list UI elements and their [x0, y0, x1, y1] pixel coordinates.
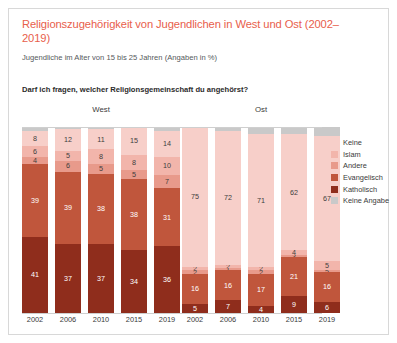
- bar-segment-andere: 6: [55, 161, 81, 172]
- bar-segment-evangelisch: 39: [55, 172, 81, 245]
- bar-value-label: 11: [97, 136, 104, 143]
- bar-value-label: 36: [163, 276, 171, 283]
- legend-label: Evangelisch: [343, 173, 383, 182]
- bar-value-label: 16: [224, 282, 232, 289]
- bar-west-2015[interactable]: 15853834: [121, 127, 147, 313]
- bar-value-label: 16: [323, 283, 331, 290]
- bar-segment-katholisch: 34: [121, 250, 147, 313]
- x-axis-line: [22, 127, 322, 128]
- bar-value-label: 6: [33, 148, 37, 155]
- bar-value-label: 8: [132, 159, 136, 166]
- legend-item-katholisch[interactable]: Katholisch: [331, 183, 389, 195]
- bar-segment-keine: 8: [22, 131, 48, 146]
- bar-segment-keine: 62: [281, 134, 307, 249]
- bar-value-label: 38: [130, 211, 138, 218]
- chart-title: Religionszugehörigkeit von Jugendlichen …: [22, 18, 352, 45]
- bar-value-label: 67: [323, 195, 331, 202]
- bar-segment-katholisch: 7: [215, 300, 241, 313]
- chart-card: Religionszugehörigkeit von Jugendlichen …: [8, 8, 389, 335]
- bar-segment-keine: 71: [248, 134, 274, 266]
- plot-area: 8643941125639371185383715853834141073136…: [22, 127, 322, 313]
- bar-segment-keine: 12: [55, 129, 81, 151]
- bar-value-label: 41: [31, 271, 39, 278]
- bar-ost-2006[interactable]: 7221167: [215, 127, 241, 313]
- x-tick-ost-2006: 2006: [213, 315, 243, 324]
- bar-value-label: 17: [257, 286, 265, 293]
- bar-value-label: 72: [224, 194, 232, 201]
- x-tick-ost-2019: 2019: [312, 315, 342, 324]
- bar-value-label: 7: [165, 178, 169, 185]
- bar-segment-islam: 6: [22, 146, 48, 157]
- legend-label: Andere: [343, 161, 367, 170]
- survey-question: Darf ich fragen, welcher Religionsgemein…: [22, 85, 362, 94]
- legend-swatch-icon: [331, 186, 338, 193]
- legend-item-keine[interactable]: Keine: [331, 137, 389, 149]
- bar-segment-evangelisch: 16: [215, 270, 241, 300]
- bar-value-label: 38: [97, 205, 105, 212]
- group-label-west: West: [22, 105, 180, 114]
- plot-baseline: [22, 313, 322, 314]
- legend-swatch-icon: [331, 162, 338, 169]
- bar-value-label: 34: [130, 278, 138, 285]
- legend-label: Keine: [343, 138, 362, 147]
- bar-segment-evangelisch: 38: [121, 179, 147, 250]
- bar-ost-2015[interactable]: 6243219: [281, 127, 307, 313]
- bar-value-label: 14: [163, 140, 171, 147]
- x-tick-west-2002: 2002: [20, 315, 50, 324]
- legend-item-keine-angabe[interactable]: Keine Angabe: [331, 195, 389, 207]
- bar-segment-andere: 5: [121, 170, 147, 179]
- bar-value-label: 5: [66, 152, 70, 159]
- bar-value-label: 5: [132, 171, 136, 178]
- bar-segment-keine: 72: [215, 131, 241, 265]
- bar-value-label: 15: [130, 137, 138, 144]
- bar-value-label: 8: [33, 135, 37, 142]
- bar-segment-islam: 5: [314, 261, 340, 270]
- bar-segment-keine: 11: [88, 129, 114, 149]
- bar-value-label: 5: [325, 262, 329, 269]
- bar-segment-keine-angabe: [281, 127, 307, 134]
- x-tick-west-2015: 2015: [119, 315, 149, 324]
- legend-swatch-icon: [331, 197, 338, 204]
- bar-value-label: 75: [191, 193, 199, 200]
- bar-value-label: 4: [33, 157, 37, 164]
- bar-segment-evangelisch: 38: [88, 174, 114, 245]
- bar-west-2002[interactable]: 8643941: [22, 127, 48, 313]
- bar-segment-andere: 5: [88, 164, 114, 173]
- chart-subtitle: Jugendliche im Alter von 15 bis 25 Jahre…: [22, 53, 362, 62]
- bar-value-label: 39: [64, 204, 72, 211]
- bar-value-label: 9: [292, 301, 296, 308]
- group-label-ost: Ost: [182, 105, 340, 114]
- bar-west-2010[interactable]: 11853837: [88, 127, 114, 313]
- bar-value-label: 62: [290, 189, 298, 196]
- bar-segment-islam: 10: [154, 157, 180, 176]
- x-axis-tick-row: 2002200620102015201920022006201020152019: [22, 315, 322, 327]
- chart-legend: KeineIslamAndereEvangelischKatholischKei…: [331, 137, 389, 207]
- bar-segment-katholisch: 37: [88, 244, 114, 313]
- bar-value-label: 12: [64, 136, 72, 143]
- bar-west-2006[interactable]: 12563937: [55, 127, 81, 313]
- legend-item-islam[interactable]: Islam: [331, 149, 389, 161]
- bar-segment-islam: 8: [121, 155, 147, 170]
- bar-segment-katholisch: 36: [154, 246, 180, 313]
- bar-segment-evangelisch: 31: [154, 188, 180, 246]
- legend-label: Keine Angabe: [343, 196, 389, 205]
- bar-segment-katholisch: 9: [281, 296, 307, 313]
- bar-ost-2002[interactable]: 7522165: [182, 127, 208, 313]
- bar-value-label: 39: [31, 197, 39, 204]
- bar-value-label: 71: [257, 197, 265, 204]
- bar-segment-evangelisch: 16: [314, 272, 340, 302]
- bar-ost-2010[interactable]: 7122174: [248, 127, 274, 313]
- legend-swatch-icon: [331, 151, 338, 158]
- bar-value-label: 6: [325, 304, 329, 311]
- bar-segment-keine: 15: [121, 127, 147, 155]
- bar-value-label: 7: [226, 303, 230, 310]
- bar-segment-keine-angabe: [248, 127, 274, 134]
- bar-value-label: 8: [99, 153, 103, 160]
- legend-item-andere[interactable]: Andere: [331, 160, 389, 172]
- bar-west-2019[interactable]: 141073136: [154, 127, 180, 313]
- legend-item-evangelisch[interactable]: Evangelisch: [331, 172, 389, 184]
- x-tick-west-2010: 2010: [86, 315, 116, 324]
- bar-segment-evangelisch: 21: [281, 257, 307, 296]
- bar-segment-islam: 5: [55, 151, 81, 160]
- bar-segment-evangelisch: 17: [248, 274, 274, 306]
